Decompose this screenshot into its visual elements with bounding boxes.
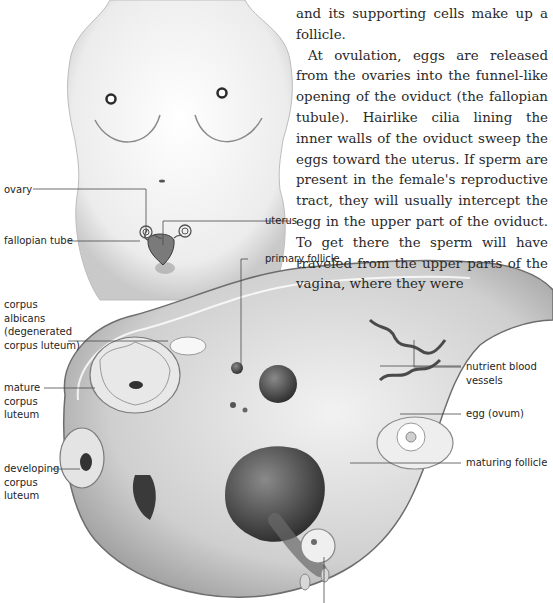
torso-figure [68,0,293,300]
article-body: and its supporting cells make up a folli… [296,0,548,295]
ovary-cross-section [60,260,553,597]
label-egg: egg (ovum) [466,407,524,421]
label-primary-follicle: primary follicle [265,252,340,266]
label-uterus: uterus [265,214,297,228]
label-nutrient-blood-vessels: nutrient blood vessels [466,360,537,387]
label-fallopian-tube: fallopian tube [4,234,73,248]
label-developing-corpus-luteum: developing corpus luteum [4,462,59,503]
label-mature-corpus-luteum: mature corpus luteum [4,381,40,422]
paragraph-fragment: and its supporting cells make up a folli… [296,4,548,46]
label-maturing-follicle: maturing follicle [466,456,547,470]
label-corpus-albicans: corpus albicans (degenerated corpus lute… [4,298,80,352]
label-ovary: ovary [4,183,32,197]
